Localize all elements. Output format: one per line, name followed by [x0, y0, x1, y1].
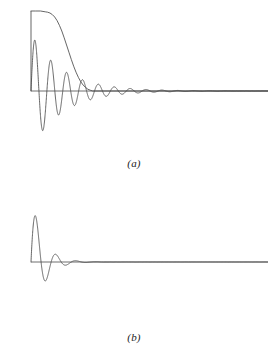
curve-damped-oscillation: [31, 216, 268, 281]
curve-damped-oscillation: [31, 40, 268, 131]
plot-panel-a: [0, 0, 268, 176]
panel-a-caption: (a): [0, 157, 268, 169]
panel-a: [0, 0, 268, 176]
curve-envelope: [31, 11, 268, 91]
panel-b-caption: (b): [0, 331, 268, 343]
plot-panel-b: [0, 176, 268, 352]
panel-b: [0, 176, 268, 352]
figure-root: (a) (b): [0, 0, 268, 352]
